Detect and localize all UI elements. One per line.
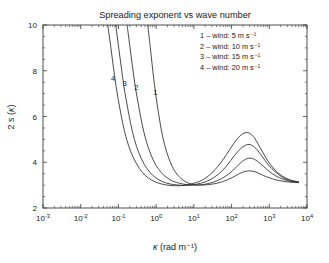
y-tick-label: 4	[33, 158, 38, 167]
x-tick-label: 10-3	[36, 213, 50, 223]
curve-label-2: 2	[134, 83, 138, 92]
chart-legend: 1 – wind: 5 m s⁻¹2 – wind: 10 m s⁻¹3 – w…	[200, 31, 261, 72]
chart-title: Spreading exponent vs wave number	[99, 10, 251, 20]
legend-entry-3: 3 – wind: 15 m s⁻¹	[200, 52, 261, 61]
x-tick-label: 101	[188, 213, 200, 223]
curve-label-4: 4	[111, 74, 115, 83]
y-tick-label: 8	[33, 67, 38, 76]
curve-label-1: 1	[153, 88, 157, 97]
legend-entry-4: 4 – wind: 20 m s⁻¹	[200, 63, 261, 72]
y-tick-label: 6	[33, 113, 38, 122]
y-tick-label: 2	[33, 204, 38, 213]
x-tick-label: 100	[150, 213, 162, 223]
y-tick-labels: 246810	[28, 21, 37, 213]
chart-figure: Spreading exponent vs wave number 10-310…	[0, 0, 329, 263]
legend-entry-2: 2 – wind: 10 m s⁻¹	[200, 42, 261, 51]
major-tick-marks	[43, 25, 307, 208]
x-tick-label: 10-2	[74, 213, 88, 223]
x-tick-label: 103	[263, 213, 275, 223]
minor-tick-marks	[43, 25, 307, 208]
x-tick-label: 104	[301, 213, 313, 223]
y-tick-label: 10	[28, 21, 37, 30]
plot-frame	[43, 25, 307, 208]
x-axis-label: κ (rad m⁻¹)	[153, 242, 197, 252]
x-tick-labels: 10-310-210-1100101102103104	[36, 213, 313, 223]
y-axis-label: 2 s (κ)	[6, 104, 16, 129]
spreading-exponent-chart: Spreading exponent vs wave number 10-310…	[0, 0, 329, 263]
curve-label-3: 3	[122, 79, 126, 88]
legend-entry-1: 1 – wind: 5 m s⁻¹	[200, 31, 257, 40]
x-tick-label: 10-1	[111, 213, 125, 223]
x-tick-label: 102	[226, 213, 238, 223]
